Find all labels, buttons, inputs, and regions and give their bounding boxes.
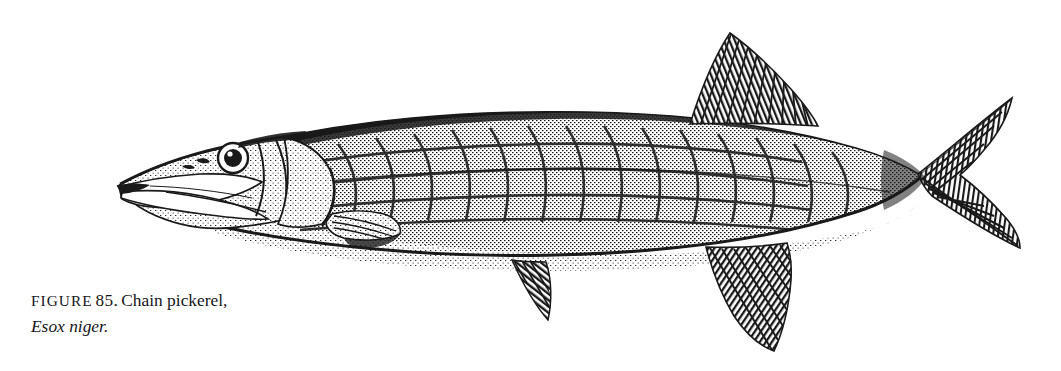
figure-caption: Figure85.Chain pickerel, Esox niger. — [31, 289, 391, 338]
caption-figure-label: Figure — [31, 292, 93, 309]
anal-fin — [706, 243, 791, 351]
eye — [218, 143, 248, 173]
figure-page: Black and white engraving of a chain pic… — [0, 0, 1061, 371]
caption-scientific-name: Esox niger. — [31, 315, 391, 338]
dorsal-fin — [690, 33, 818, 126]
caudal-peduncle-shading — [881, 150, 926, 210]
pelvic-fin — [512, 260, 551, 320]
fish-head — [118, 131, 335, 228]
caption-figure-number: 85. — [93, 291, 119, 310]
caption-common-name: Chain pickerel, — [118, 290, 227, 310]
caudal-fin — [881, 98, 1020, 248]
caption-line-primary: Figure85.Chain pickerel, — [31, 289, 391, 312]
